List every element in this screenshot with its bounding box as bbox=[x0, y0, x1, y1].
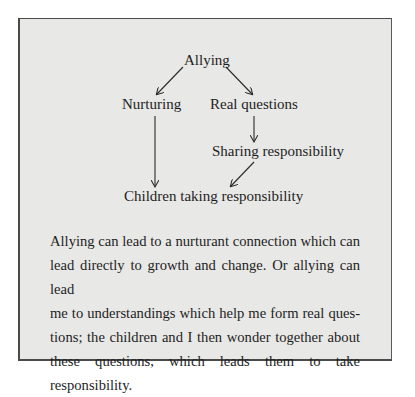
arrow-sharing-to-children bbox=[231, 162, 254, 186]
caption-line: me to understandings which help me form … bbox=[50, 301, 360, 325]
arrow-allying-to-real-questions bbox=[226, 67, 252, 94]
arrow-allying-to-nurturing bbox=[157, 67, 183, 94]
caption-line: tions; the children and I then wonder to… bbox=[50, 325, 360, 349]
caption-line: Allying can lead to a nurturant connecti… bbox=[50, 229, 360, 253]
caption-line: these questions, which leads them to tak… bbox=[50, 349, 360, 397]
caption-line: lead directly to growth and change. Or a… bbox=[50, 253, 360, 301]
caption-paragraph: Allying can lead to a nurturant connecti… bbox=[50, 229, 360, 397]
